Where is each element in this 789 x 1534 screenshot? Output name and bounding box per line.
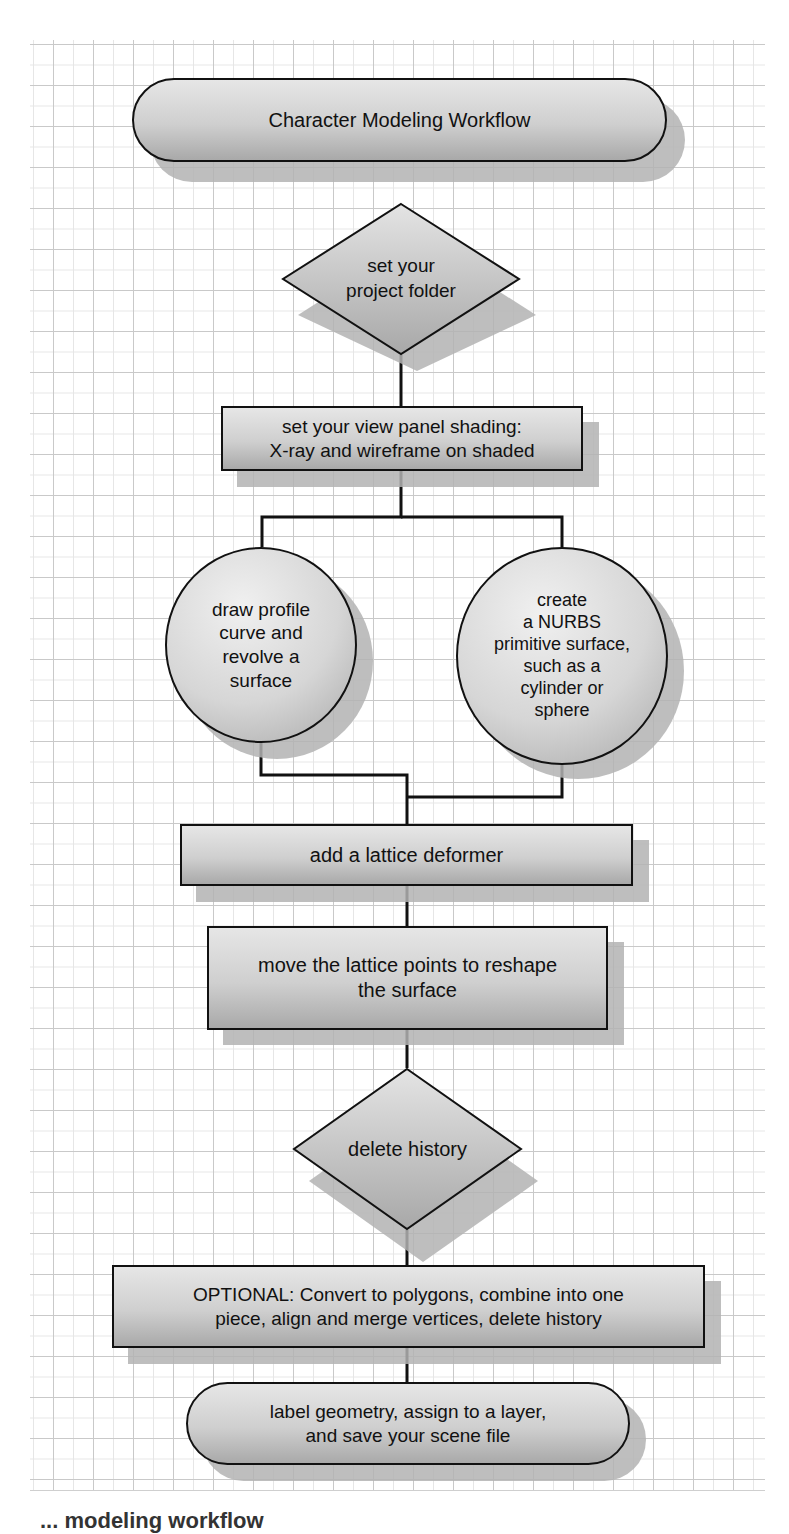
label-line: curve and <box>212 621 310 645</box>
label-line: delete history <box>348 1136 467 1162</box>
label-line: X-ray and wireframe on shaded <box>269 439 534 463</box>
process-view-panel: set your view panel shading: X-ray and w… <box>221 406 583 471</box>
label-line: surface <box>212 669 310 693</box>
process-lattice: add a lattice deformer <box>180 824 633 886</box>
label-line: a NURBS <box>494 612 630 634</box>
label-line: draw profile <box>212 598 310 622</box>
start-terminator: Character Modeling Workflow <box>132 78 667 162</box>
label-line: set your view panel shading: <box>269 415 534 439</box>
label-line: add a lattice deformer <box>310 843 503 868</box>
label-line: label geometry, assign to a layer, <box>270 1400 546 1424</box>
label-line: cylinder or <box>494 678 630 700</box>
label-line: create <box>494 590 630 612</box>
decision-project-folder: set your project folder <box>282 203 520 355</box>
label-line: move the lattice points to reshape <box>258 953 557 978</box>
circle-nurbs-primitive: create a NURBS primitive surface, such a… <box>456 547 668 765</box>
decision-delete-history: delete history <box>293 1068 522 1230</box>
start-terminator-label: Character Modeling Workflow <box>269 108 531 133</box>
end-terminator: label geometry, assign to a layer, and s… <box>186 1382 630 1465</box>
label-line: piece, align and merge vertices, delete … <box>193 1307 624 1331</box>
label-line: the surface <box>258 978 557 1003</box>
label-line: and save your scene file <box>270 1424 546 1448</box>
label-line: revolve a <box>212 645 310 669</box>
decision-delete-history-label: delete history <box>293 1068 522 1230</box>
circle-profile-curve: draw profile curve and revolve a surface <box>165 547 357 743</box>
process-move-lattice: move the lattice points to reshape the s… <box>207 926 608 1030</box>
label-line: such as a <box>494 656 630 678</box>
label-line: OPTIONAL: Convert to polygons, combine i… <box>193 1283 624 1307</box>
label-line: sphere <box>494 700 630 722</box>
process-optional: OPTIONAL: Convert to polygons, combine i… <box>112 1265 705 1348</box>
label-line: project folder <box>346 279 456 304</box>
figure-caption: ... modeling workflow <box>40 1508 264 1534</box>
label-line: set your <box>346 254 456 279</box>
decision-project-folder-label: set your project folder <box>282 203 520 355</box>
label-line: primitive surface, <box>494 634 630 656</box>
